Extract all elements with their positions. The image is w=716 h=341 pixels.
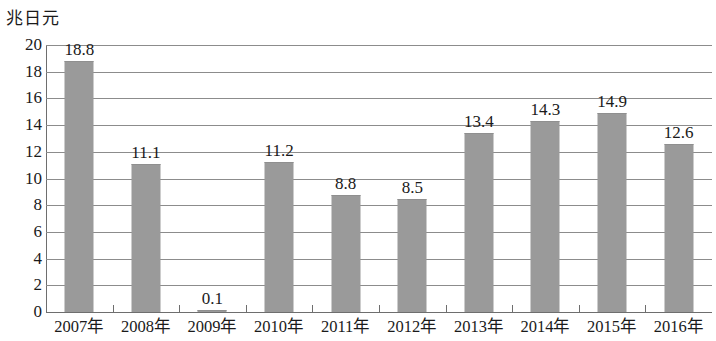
x-axis-tick-mark: [446, 305, 447, 312]
x-axis-label: 2014年: [512, 315, 579, 339]
x-axis-baseline: [46, 312, 712, 313]
bar-chart: 兆日元 20181614121086420 18.811.10.111.28.8…: [0, 0, 716, 341]
bar-value-label: 13.4: [464, 113, 494, 130]
bar-slot: 11.1: [113, 45, 180, 312]
x-axis-label: 2016年: [645, 315, 712, 339]
bar-value-label: 18.8: [64, 41, 94, 58]
bar-slot: 13.4: [446, 45, 513, 312]
y-axis-tick-label: 14: [2, 116, 42, 133]
bar-value-label: 12.6: [664, 124, 694, 141]
bar[interactable]: [398, 199, 427, 312]
x-axis-label: 2013年: [446, 315, 513, 339]
bar-value-label: 14.9: [597, 93, 627, 110]
x-axis-tick-mark: [179, 305, 180, 312]
x-axis-label: 2009年: [179, 315, 246, 339]
bar-series: 18.811.10.111.28.88.513.414.314.912.6: [46, 45, 712, 312]
y-axis-tick-label: 8: [2, 196, 42, 213]
bar-slot: 8.8: [312, 45, 379, 312]
x-axis-category-labels: 2007年2008年2009年2010年2011年2012年2013年2014年…: [46, 315, 712, 341]
bar-slot: 11.2: [246, 45, 313, 312]
bar-value-label: 14.3: [531, 101, 561, 118]
y-axis-tick-label: 0: [2, 303, 42, 320]
y-axis-tick-label: 16: [2, 89, 42, 106]
x-axis-tick-mark: [512, 305, 513, 312]
x-axis-label: 2011年: [312, 315, 379, 339]
bar[interactable]: [265, 162, 294, 312]
y-axis-tick-label: 18: [2, 63, 42, 80]
bar-value-label: 8.5: [402, 179, 423, 196]
bar[interactable]: [331, 195, 360, 312]
bar[interactable]: [598, 113, 627, 312]
x-axis-tick-mark: [246, 305, 247, 312]
bar-slot: 18.8: [46, 45, 113, 312]
bar-slot: 0.1: [179, 45, 246, 312]
y-axis-tick-label: 20: [2, 36, 42, 53]
y-axis-tick-label: 4: [2, 250, 42, 267]
x-axis-label: 2008年: [113, 315, 180, 339]
plot-area: 18.811.10.111.28.88.513.414.314.912.6: [46, 45, 712, 312]
y-axis-tick-label: 12: [2, 143, 42, 160]
bar[interactable]: [65, 61, 94, 312]
bar[interactable]: [131, 164, 160, 312]
bar-slot: 14.3: [512, 45, 579, 312]
bar-value-label: 0.1: [202, 290, 223, 307]
bar-value-label: 11.1: [131, 144, 160, 161]
bar[interactable]: [531, 121, 560, 312]
x-axis-tick-mark: [379, 305, 380, 312]
x-axis-label: 2010年: [246, 315, 313, 339]
x-axis-label: 2015年: [579, 315, 646, 339]
y-axis-tick-label: 6: [2, 223, 42, 240]
x-axis-tick-mark: [579, 305, 580, 312]
y-axis-unit-label: 兆日元: [6, 9, 60, 29]
x-axis-tick-mark: [645, 305, 646, 312]
bar-slot: 12.6: [645, 45, 712, 312]
bar[interactable]: [464, 133, 493, 312]
x-axis-tick-mark: [312, 305, 313, 312]
y-axis-tick-labels: 20181614121086420: [0, 45, 42, 312]
y-axis-tick-label: 2: [2, 276, 42, 293]
bar-value-label: 11.2: [265, 142, 294, 159]
bar-slot: 14.9: [579, 45, 646, 312]
bar-value-label: 8.8: [335, 175, 356, 192]
y-axis-tick-label: 10: [2, 170, 42, 187]
bar[interactable]: [198, 310, 227, 312]
bar-slot: 8.5: [379, 45, 446, 312]
x-axis-tick-mark: [113, 305, 114, 312]
x-axis-label: 2012年: [379, 315, 446, 339]
x-axis-label: 2007年: [46, 315, 113, 339]
bar[interactable]: [664, 144, 693, 312]
